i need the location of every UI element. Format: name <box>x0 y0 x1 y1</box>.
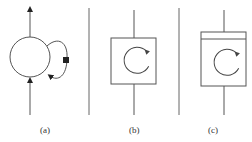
rotation-arrow-icon <box>120 44 152 77</box>
rotation-arrow-icon <box>210 46 242 79</box>
panel-label-a: (a) <box>40 125 50 135</box>
node-circle <box>10 37 50 77</box>
panel-label-b: (b) <box>129 125 140 135</box>
panel-a: (a) <box>10 9 69 135</box>
process-box <box>111 38 156 84</box>
panel-label-c: (c) <box>208 125 218 135</box>
panel-b: (b) <box>111 10 156 135</box>
panel-c: (c) <box>201 10 246 135</box>
process-box <box>201 32 246 86</box>
figure-canvas: (a) (b) (c) <box>0 0 252 142</box>
feedback-square-marker <box>63 57 69 63</box>
